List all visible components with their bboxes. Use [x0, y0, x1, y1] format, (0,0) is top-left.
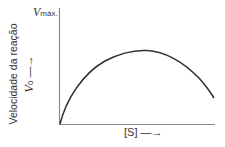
y-axis-title: Velocidade da reação — [7, 24, 19, 125]
v0-label: V0 —→ — [22, 56, 37, 93]
v0-subscript: 0 — [26, 81, 35, 85]
x-axis-title: [S] —→ — [124, 126, 163, 138]
v0-v: V — [22, 85, 36, 92]
vmax-subscript: máx. — [40, 9, 57, 18]
vmax-label: Vmáx. — [33, 5, 58, 20]
velocity-curve — [60, 50, 214, 124]
v0-arrow-icon: —→ — [23, 56, 35, 81]
